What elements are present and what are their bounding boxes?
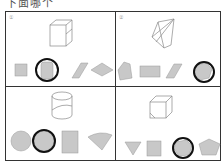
panel-4 bbox=[116, 87, 223, 160]
circle-option bbox=[11, 131, 31, 151]
parallelogram-option bbox=[72, 63, 88, 78]
panel-4-figures bbox=[116, 87, 223, 160]
panel-1-figures bbox=[6, 12, 114, 85]
parallelogram-option bbox=[166, 64, 182, 78]
cuboid-icon bbox=[50, 20, 72, 46]
cut-cube-icon bbox=[152, 19, 174, 48]
square-option bbox=[15, 64, 27, 76]
question-header: 下面哪个 bbox=[6, 0, 54, 10]
rectangle-option bbox=[62, 131, 78, 153]
hexagon-option bbox=[174, 140, 192, 156]
cube-cut-corner-icon bbox=[150, 96, 172, 118]
triangle-option bbox=[125, 142, 141, 155]
panel-3 bbox=[6, 87, 114, 160]
panel-3-figures bbox=[6, 87, 114, 160]
panel-1: ① bbox=[6, 12, 114, 85]
pentagon-option bbox=[118, 62, 132, 80]
pentagon-option bbox=[199, 139, 220, 155]
answer-grid: ① ② bbox=[5, 11, 221, 161]
rhombus-option bbox=[91, 63, 113, 76]
panel-2: ② bbox=[116, 12, 223, 85]
square-option bbox=[147, 141, 161, 156]
rounded-rectangle-option bbox=[41, 62, 53, 79]
circle-option bbox=[34, 131, 54, 151]
panel-2-figures bbox=[116, 12, 223, 85]
cylinder-icon bbox=[52, 92, 72, 119]
rectangle-option bbox=[140, 66, 160, 77]
sector-option bbox=[88, 133, 112, 150]
